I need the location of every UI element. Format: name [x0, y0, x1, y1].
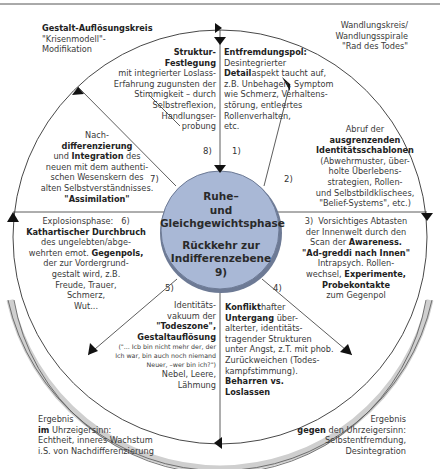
- center-label: Ruhe– und Gleichgewichtsphase Rückkehr z…: [160, 190, 282, 279]
- phase-7-text: Nach- differenzierung und Integration de…: [30, 130, 164, 204]
- phase-1-text: Entfremdungspol: Desintegrierter Detaila…: [224, 47, 349, 132]
- phase-5-text: Identitäts- vakuum der "Todeszone", Gest…: [86, 300, 216, 391]
- header-left-title: Gestalt-Auflösungskreis: [42, 23, 153, 33]
- arrow-top-icon: [215, 23, 222, 33]
- phase-5-number: 5): [165, 283, 174, 293]
- footer-right: Ergebnis gegen den Uhrzeigersinn: Selbst…: [297, 414, 406, 456]
- arrow-bottom-icon: [214, 437, 222, 449]
- phase-6-text: Explosionsphase: 6) Kathartischer Durchb…: [16, 216, 156, 311]
- footer-left: Ergebnis im Uhrzeigersinn: Echtheit, inn…: [38, 414, 154, 456]
- phase-1-number: 1): [232, 146, 241, 156]
- phase-8-number: 8): [203, 146, 212, 156]
- phase-2-number: 2): [284, 174, 293, 184]
- phase-4-text: Konflikthafter Untergang über- alterter,…: [225, 302, 355, 397]
- phase-8-text: Struktur- Festlegung mit integrierter Lo…: [92, 47, 216, 132]
- phase-7-number: 7): [150, 174, 159, 184]
- arrow-center-down-icon: [214, 37, 226, 45]
- phase-3-text: 3) Vorsichtiges Abtasten der Innenwelt d…: [286, 216, 426, 301]
- phase-4-number: 4): [273, 283, 282, 293]
- phase-2-text: Abruf der ausgrenzenden Identitätsschabl…: [300, 124, 430, 209]
